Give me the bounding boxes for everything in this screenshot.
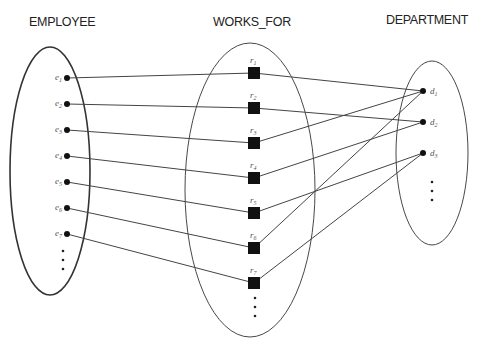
department-node-d2 <box>420 119 426 125</box>
link-e6-r6 <box>67 208 254 248</box>
employee-label-e4: e4 <box>55 150 62 161</box>
relationship-label-r4: r4 <box>250 160 257 171</box>
employee-label-e5: e5 <box>55 176 62 187</box>
employee-node-e4 <box>64 153 70 159</box>
relationship-label-r1: r1 <box>250 55 257 66</box>
employee-node-e1 <box>64 75 70 81</box>
relationship-node-r1 <box>248 67 260 79</box>
relationship-node-r6 <box>248 242 260 254</box>
employee-continuation-dots <box>62 250 65 271</box>
employee-label-e2: e2 <box>55 98 62 109</box>
employee-label-e3: e3 <box>55 124 62 135</box>
nodes: e1e2e3e4e5e6e7r1r2r3r4r5r6r7d1d2d3 <box>55 55 438 289</box>
link-r3-d1 <box>254 91 423 143</box>
link-r7-d3 <box>254 153 423 283</box>
link-e7-r7 <box>67 234 254 283</box>
links <box>67 73 423 283</box>
er-diagram: EMPLOYEE WORKS_FOR DEPARTMENT e1e2e3e4e5… <box>0 0 478 345</box>
relationship-label-r5: r5 <box>250 195 257 206</box>
relationship-node-r4 <box>248 172 260 184</box>
works-for-header: WORKS_FOR <box>213 15 291 29</box>
employee-node-e5 <box>64 179 70 185</box>
works-for-set-ellipse <box>185 43 315 337</box>
relationship-node-r5 <box>248 207 260 219</box>
employee-node-e7 <box>64 231 70 237</box>
link-e1-r1 <box>67 73 254 78</box>
relationship-node-r7 <box>248 277 260 289</box>
link-e5-r5 <box>67 182 254 213</box>
link-e3-r3 <box>67 130 254 143</box>
department-label-d3: d3 <box>430 148 438 159</box>
link-e4-r4 <box>67 156 254 178</box>
relationship-node-r3 <box>248 137 260 149</box>
employee-node-e6 <box>64 205 70 211</box>
relationship-label-r2: r2 <box>250 90 257 101</box>
relationship-label-r3: r3 <box>250 125 257 136</box>
relationship-label-r7: r7 <box>250 265 258 276</box>
employee-label-e7: e7 <box>55 228 63 239</box>
employee-header: EMPLOYEE <box>29 15 95 29</box>
link-r1-d1 <box>254 73 423 91</box>
department-header: DEPARTMENT <box>386 13 469 27</box>
employee-label-e1: e1 <box>55 72 62 83</box>
employee-label-e6: e6 <box>55 202 62 213</box>
works-for-continuation-dots <box>254 297 257 318</box>
department-label-d1: d1 <box>430 86 438 97</box>
relationship-label-r6: r6 <box>250 230 257 241</box>
employee-node-e2 <box>64 101 70 107</box>
employee-node-e3 <box>64 127 70 133</box>
link-e2-r2 <box>67 104 254 108</box>
department-node-d3 <box>420 150 426 156</box>
department-continuation-dots <box>431 181 434 202</box>
department-node-d1 <box>420 88 426 94</box>
employee-set-ellipse <box>10 47 90 295</box>
relationship-node-r2 <box>248 102 260 114</box>
department-label-d2: d2 <box>430 117 438 128</box>
